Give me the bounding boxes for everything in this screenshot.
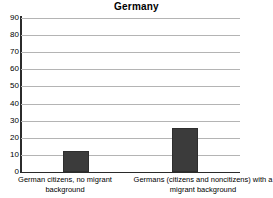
gridline-40 <box>21 104 240 105</box>
y-tick-label-10: 10 <box>0 151 19 159</box>
y-axis-tick-labels: 0102030405060708090 <box>0 0 19 198</box>
y-tick-label-20: 20 <box>0 134 19 142</box>
y-tick-label-30: 30 <box>0 117 19 125</box>
gridline-70 <box>21 52 240 53</box>
y-tick-label-90: 90 <box>0 14 19 22</box>
y-tick-label-60: 60 <box>0 65 19 73</box>
y-tick-label-40: 40 <box>0 100 19 108</box>
chart-title: Germany <box>0 1 273 12</box>
gridline-30 <box>21 121 240 122</box>
y-tick-label-80: 80 <box>0 31 19 39</box>
gridline-0 <box>21 172 240 173</box>
bar-chart: Germany 0102030405060708090 German citiz… <box>0 0 273 198</box>
plot-area <box>21 18 240 172</box>
x-axis-category-label-1: Germans (citizens and noncitizens) with … <box>133 175 273 194</box>
gridline-80 <box>21 35 240 36</box>
gridline-20 <box>21 138 240 139</box>
bar-0 <box>63 151 89 172</box>
bar-1 <box>172 128 198 172</box>
gridline-90 <box>21 18 240 19</box>
gridline-50 <box>21 86 240 87</box>
y-tick-label-50: 50 <box>0 82 19 90</box>
gridline-60 <box>21 69 240 70</box>
gridline-10 <box>21 155 240 156</box>
y-tick-label-70: 70 <box>0 48 19 56</box>
x-axis-category-label-0: German citizens, no migrant background <box>0 175 130 194</box>
